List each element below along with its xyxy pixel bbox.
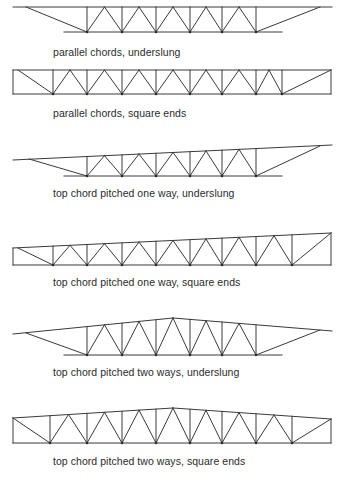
web-diagonal [239,149,256,176]
web-diagonal [274,236,292,265]
end-diagonal [18,70,53,94]
web-diagonal [87,70,105,94]
web-diagonal [53,70,70,94]
end-diagonal [282,70,331,94]
web-diagonal [139,410,156,443]
joint-node [86,354,89,357]
web-diagonal [105,70,123,94]
joint-node [86,264,89,267]
web-diagonal [222,413,239,443]
joint-node [255,93,258,96]
joint-node [155,354,158,357]
web-diagonal [122,242,139,265]
web-diagonal [239,7,256,32]
web-diagonal [105,244,123,265]
web-diagonal [139,7,156,32]
web-diagonal [156,7,173,32]
truss-diagrams [0,0,347,480]
web-diagonal [139,154,156,176]
end-diagonal [256,146,320,176]
web-diagonal [206,151,222,176]
web-diagonal [105,7,123,32]
web-diagonal [122,7,139,32]
joint-node [255,31,258,34]
truss-pitched-one-way-underslung [13,145,332,177]
end-diagonal [256,330,320,355]
caption-pitched-two-ways-underslung: top chord pitched two ways, underslung [53,366,239,378]
web-diagonal [256,415,274,443]
joint-node [221,93,224,96]
web-diagonal [274,415,292,443]
joint-node [86,31,89,34]
web-diagonal [105,412,123,443]
web-diagonal [87,325,105,355]
top-chord [13,408,173,418]
web-diagonal [87,412,105,443]
truss-pitched-two-ways-underslung [13,318,332,356]
joint-node [121,354,124,357]
web-diagonal [222,323,239,355]
joint-node [121,442,124,445]
end-diagonal [18,248,53,265]
web-diagonal [50,415,69,443]
caption-pitched-one-way-underslung: top chord pitched one way, underslung [53,187,234,199]
web-diagonal [156,408,173,443]
web-diagonal [156,152,173,176]
web-diagonal [139,242,156,265]
web-diagonal [256,70,269,94]
joint-node [52,93,55,96]
end-diagonal [29,159,87,176]
web-diagonal [173,152,190,176]
web-diagonal [122,154,139,176]
joint-node [255,264,258,267]
web-diagonal [269,70,282,94]
joint-node [121,175,124,178]
web-diagonal [190,239,206,265]
caption-pitched-one-way-square: top chord pitched one way, square ends [53,276,240,288]
web-diagonal [122,321,139,355]
joint-node [291,264,294,267]
web-diagonal [190,410,206,443]
truss-parallel-square [13,70,331,95]
top-chord [13,318,173,334]
web-diagonal [87,7,105,32]
joint-node [189,264,192,267]
joint-node [291,442,294,445]
joint-node [86,175,89,178]
web-diagonal [190,7,206,32]
web-diagonal [173,70,190,94]
web-diagonal [190,70,206,94]
end-diagonal [13,418,50,443]
web-diagonal [206,410,222,443]
caption-pitched-two-ways-square: top chord pitched two ways, square ends [53,455,245,467]
top-chord [173,318,332,331]
end-diagonal [292,233,331,265]
web-diagonal [206,239,222,265]
end-diagonal [26,333,87,355]
web-diagonal [190,151,206,176]
end-diagonal [256,7,320,32]
web-diagonal [222,70,239,94]
joint-node [221,175,224,178]
joint-node [155,93,158,96]
web-diagonal [190,321,206,355]
web-diagonal [206,70,222,94]
joint-node [155,264,158,267]
web-diagonal [105,325,123,355]
web-diagonal [222,7,239,32]
joint-node [155,175,158,178]
web-diagonal [173,240,190,265]
joint-node [155,442,158,445]
truss-pitched-one-way-square [13,233,331,266]
joint-node [49,442,52,445]
joint-node [189,93,192,96]
joint-node [221,31,224,34]
web-diagonal [206,7,222,32]
joint-node [121,93,124,96]
web-diagonal [206,321,222,355]
joint-node [221,264,224,267]
web-diagonal [173,7,190,32]
web-diagonal [70,245,87,265]
truss-pitched-two-ways-square [13,408,331,444]
end-diagonal [26,7,87,32]
